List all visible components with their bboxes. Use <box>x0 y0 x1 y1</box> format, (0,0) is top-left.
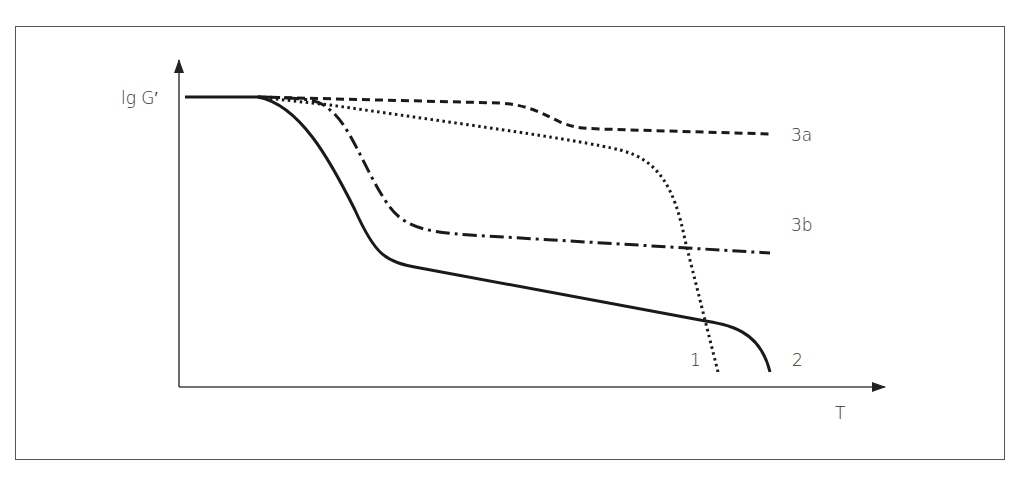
curve-3b-label: 3b <box>791 217 813 234</box>
curve-3b <box>258 97 770 253</box>
y-axis-label: lg G′ <box>121 90 158 107</box>
curve-1-label: 1 <box>690 352 701 369</box>
curve-3a-label: 3a <box>791 127 812 144</box>
x-axis-label: T <box>835 405 845 422</box>
curve-1 <box>258 97 718 372</box>
chart-plot <box>0 0 1020 477</box>
curve-2-label: 2 <box>792 352 803 369</box>
curve-2 <box>185 97 770 372</box>
